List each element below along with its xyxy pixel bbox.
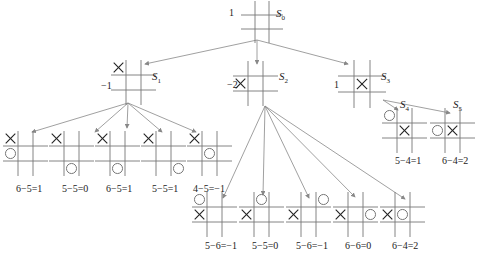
s1-child-eval: 5−5=0 [62,184,88,194]
s2-child-eval: 5−6=−1 [205,241,237,251]
x-mark-icon [52,134,62,144]
s1-child-board [141,131,186,176]
s2-child-board [286,192,331,237]
s2-state-label: S2 [279,71,288,85]
s4-state-label: S4 [400,99,409,113]
x-mark-icon [242,210,252,220]
x-mark-icon [98,134,108,144]
x-mark-icon [400,126,410,136]
o-mark-icon [318,194,328,204]
o-mark-icon [194,194,204,204]
x-mark-icon [448,126,458,136]
s1-child-eval: 4−5=−1 [193,184,225,194]
s2-child-eval: 5−5=0 [252,241,278,251]
o-mark-icon [204,148,214,158]
o-mark-icon [256,194,266,204]
s2-child-board [192,192,237,237]
s1-board [111,60,156,105]
s5-board [430,108,475,153]
s2-board [233,61,278,106]
s3-value: 1 [334,80,339,90]
s3-state-label: S3 [381,71,390,85]
x-mark-icon [114,63,124,73]
x-mark-icon [6,134,16,144]
x-mark-icon [357,79,367,89]
o-mark-icon [384,110,394,120]
o-mark-icon [5,148,15,158]
s1-child-board [49,131,94,176]
s1-child-board [187,131,232,176]
x-mark-icon [144,134,154,144]
s1-child-eval: 5−5=1 [152,184,178,194]
s5-eval: 6−4=2 [442,156,468,166]
root-state-label: S0 [276,8,285,22]
o-mark-icon [173,163,183,173]
o-mark-icon [432,125,442,135]
x-mark-icon [190,134,200,144]
s1-state-label: S1 [152,71,161,85]
x-mark-icon [383,210,393,220]
s1-child-board [95,131,140,176]
s2-value: −2 [227,80,238,90]
s3-board [338,60,386,108]
x-mark-icon [336,210,346,220]
s5-state-label: S5 [453,99,462,113]
s2-child-eval: 6−4=2 [392,241,418,251]
s2-child-eval: 6−6=0 [345,241,371,251]
s1-child-board [3,131,48,176]
s2-child-board [239,192,284,237]
s1-child-eval: 6−5=1 [16,184,42,194]
x-mark-icon [195,210,205,220]
o-mark-icon [365,209,375,219]
s4-board [382,108,427,153]
o-mark-icon [66,163,76,173]
s2-child-eval: 5−6=−1 [296,241,328,251]
s2-child-board [333,192,378,237]
o-mark-icon [397,209,407,219]
s1-value: −1 [101,81,112,91]
root-value: 1 [229,8,234,18]
s4-eval: 5−4=1 [395,156,421,166]
s1-child-eval: 6−5=1 [106,184,132,194]
o-mark-icon [112,163,122,173]
s2-child-board [380,192,425,237]
game-tree-diagram [0,0,480,256]
x-mark-icon [289,210,299,220]
